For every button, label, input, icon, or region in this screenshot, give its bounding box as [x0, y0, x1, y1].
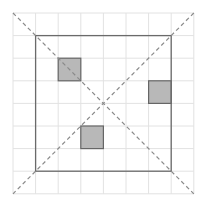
shaded-cell [81, 126, 104, 149]
diagram-canvas [0, 0, 201, 206]
shaded-cell [149, 81, 172, 104]
grid-diagram [0, 0, 201, 206]
